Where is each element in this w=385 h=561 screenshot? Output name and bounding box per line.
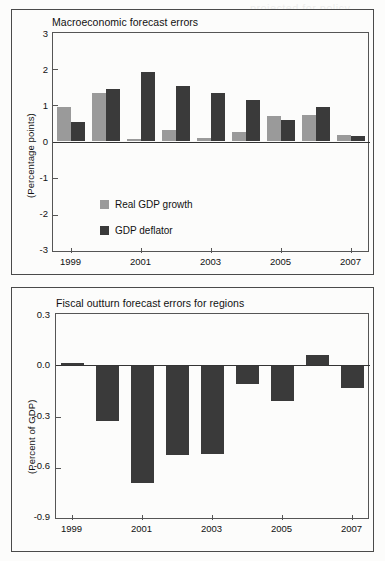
- legend-swatch-icon-growth: [100, 200, 109, 209]
- x-tick-mark: [142, 515, 143, 520]
- x-tick-label: 2005: [259, 523, 304, 534]
- bar-fiscal-2000: [96, 366, 119, 421]
- bar-growth-2004: [232, 132, 246, 141]
- y-tick-label: -0.6: [15, 460, 50, 471]
- x-tick-mark: [352, 515, 353, 520]
- y-tick-mark: [53, 69, 58, 70]
- bar-growth-2003: [197, 138, 211, 141]
- x-tick-mark: [281, 248, 282, 253]
- y-tick-label: 2: [22, 64, 48, 75]
- y-tick-mark: [53, 215, 58, 216]
- bar-fiscal-2004: [236, 366, 259, 384]
- y-tick-label: -0.9: [15, 511, 50, 522]
- bar-deflator-2005: [281, 120, 295, 141]
- bar-deflator-2007: [351, 136, 365, 141]
- figure-page: projected for policy their output gap es…: [0, 0, 385, 561]
- y-tick-mark: [53, 105, 58, 106]
- chart-panel-fiscal: Fiscal outturn forecast errors for regio…: [11, 287, 374, 552]
- x-tick-label: 1999: [48, 256, 93, 267]
- plot-area-fiscal: [55, 313, 369, 519]
- y-tick-label: -3: [19, 244, 48, 255]
- bar-deflator-2000: [106, 89, 120, 141]
- chart-title-macroeconomic: Macroeconomic forecast errors: [52, 16, 198, 28]
- bar-fiscal-2002: [166, 366, 189, 455]
- legend-label-real-gdp-growth: Real GDP growth: [115, 199, 193, 210]
- x-tick-label: 2003: [188, 256, 233, 267]
- x-tick-label: 2001: [119, 523, 164, 534]
- bar-growth-2002: [162, 130, 176, 141]
- plot-area-macroeconomic: Real GDP growth GDP deflator: [52, 32, 369, 252]
- y-tick-label: 0.3: [18, 309, 50, 320]
- chart-panel-macroeconomic: Macroeconomic forecast errors (Percentag…: [11, 9, 374, 275]
- x-tick-mark: [71, 248, 72, 253]
- bar-deflator-2002: [176, 86, 190, 141]
- y-tick-label: -2: [19, 208, 48, 219]
- x-tick-mark: [351, 248, 352, 253]
- legend-item-gdp-deflator: GDP deflator: [100, 225, 173, 236]
- bar-growth-2007: [337, 135, 351, 141]
- x-tick-label: 2007: [329, 523, 374, 534]
- y-tick-label: -1: [19, 172, 48, 183]
- x-tick-mark: [141, 248, 142, 253]
- bar-deflator-2003: [211, 93, 225, 141]
- x-tick-label: 2001: [118, 256, 163, 267]
- y-tick-label: 0.0: [18, 359, 50, 370]
- x-tick-label: 2007: [328, 256, 373, 267]
- y-axis-label-macroeconomic: (Percentage points): [25, 113, 36, 198]
- legend-label-gdp-deflator: GDP deflator: [115, 225, 173, 236]
- legend-swatch-icon-deflator: [100, 226, 109, 235]
- bar-fiscal-1999: [61, 363, 84, 365]
- bar-deflator-2001: [141, 72, 155, 141]
- bar-growth-2006: [302, 115, 316, 141]
- y-tick-mark: [56, 468, 61, 469]
- bar-deflator-1999: [71, 122, 85, 141]
- bar-fiscal-2006: [306, 355, 329, 365]
- bar-fiscal-2001: [131, 366, 154, 483]
- bar-deflator-2006: [316, 107, 330, 141]
- x-tick-mark: [72, 515, 73, 520]
- y-tick-label: -0.3: [15, 410, 50, 421]
- bar-fiscal-2007: [341, 366, 364, 388]
- x-tick-mark: [212, 515, 213, 520]
- x-tick-mark: [282, 515, 283, 520]
- chart-title-fiscal: Fiscal outturn forecast errors for regio…: [56, 297, 244, 309]
- bar-deflator-2004: [246, 100, 260, 141]
- bar-growth-2000: [92, 93, 106, 141]
- bar-growth-2001: [127, 139, 141, 141]
- x-tick-label: 2005: [258, 256, 303, 267]
- y-tick-label: 0: [22, 136, 48, 147]
- legend-item-real-gdp-growth: Real GDP growth: [100, 199, 193, 210]
- y-tick-mark: [56, 417, 61, 418]
- y-tick-label: 3: [22, 28, 48, 39]
- bar-fiscal-2003: [201, 366, 224, 454]
- x-tick-label: 2003: [189, 523, 234, 534]
- bar-growth-1999: [57, 107, 71, 141]
- y-tick-label: 1: [22, 100, 48, 111]
- zero-axis-line: [53, 142, 370, 143]
- y-tick-mark: [53, 178, 58, 179]
- bar-growth-2005: [267, 116, 281, 141]
- bar-fiscal-2005: [271, 366, 294, 401]
- x-tick-label: 1999: [49, 523, 94, 534]
- x-tick-mark: [211, 248, 212, 253]
